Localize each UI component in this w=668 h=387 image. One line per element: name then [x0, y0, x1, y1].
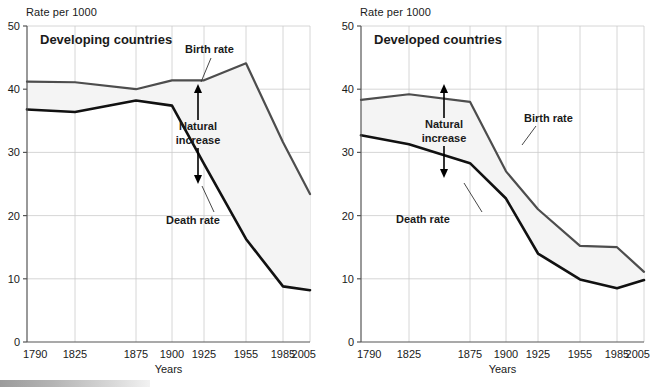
- natural-increase-band: [27, 63, 310, 290]
- y-axis-tick-label: 40: [342, 83, 354, 95]
- figure-root: Rate per 1000 01020304050179018251875190…: [0, 0, 668, 387]
- y-axis-tick-label: 50: [8, 20, 20, 32]
- y-axis-tick-label: 40: [8, 83, 20, 95]
- natural-increase-label-line2: increase: [176, 134, 221, 146]
- panel-developing: Rate per 1000 01020304050179018251875190…: [0, 0, 334, 387]
- natural-increase-label-line2: increase: [422, 132, 467, 144]
- y-axis-caption-right: Rate per 1000: [360, 6, 431, 18]
- birth-rate-label: Birth rate: [524, 112, 573, 124]
- x-axis-tick-label: 1875: [458, 348, 482, 360]
- birth-rate-leader-line: [522, 126, 536, 145]
- panel-title: Developed countries: [374, 32, 502, 47]
- x-axis-tick-label: 1955: [568, 348, 592, 360]
- death-rate-leader-line: [464, 183, 482, 212]
- x-axis-tick-label: 1790: [357, 348, 381, 360]
- arrow-head-down: [194, 175, 202, 184]
- y-axis-tick-label: 0: [14, 336, 20, 348]
- natural-increase-label-line1: Natural: [179, 120, 217, 132]
- death-rate-label: Death rate: [396, 213, 450, 225]
- chart-developing: 0102030405017901825187519001925195519852…: [0, 0, 334, 375]
- natural-increase-label-line1: Natural: [425, 118, 463, 130]
- y-axis-tick-label: 10: [8, 273, 20, 285]
- y-axis-tick-label: 0: [348, 336, 354, 348]
- x-axis-tick-label: 1825: [397, 348, 421, 360]
- y-axis-tick-label: 20: [342, 210, 354, 222]
- x-axis-tick-label: 1900: [494, 348, 518, 360]
- x-axis-tick-label: 1790: [23, 348, 47, 360]
- x-axis-tick-label: 1875: [124, 348, 148, 360]
- x-axis-tick-label: 2005: [292, 348, 316, 360]
- y-axis-tick-label: 30: [342, 146, 354, 158]
- panel-developed: Rate per 1000 01020304050179018251875190…: [334, 0, 668, 387]
- natural-increase-band: [361, 94, 644, 288]
- y-axis-tick-label: 10: [342, 273, 354, 285]
- x-axis-tick-label: 2005: [626, 348, 650, 360]
- y-axis-caption-left: Rate per 1000: [26, 6, 97, 18]
- x-axis-title: Years: [155, 363, 183, 375]
- x-axis-tick-label: 1900: [160, 348, 184, 360]
- chart-developed: 0102030405017901825187519001925195519852…: [334, 0, 668, 375]
- arrow-head-up: [440, 84, 448, 93]
- x-axis-tick-label: 1955: [234, 348, 258, 360]
- birth-rate-label: Birth rate: [185, 43, 234, 55]
- x-axis-tick-label: 1925: [192, 348, 216, 360]
- arrow-head-down: [440, 169, 448, 178]
- death-rate-label: Death rate: [166, 214, 220, 226]
- panel-title: Developing countries: [40, 32, 172, 47]
- y-axis-tick-label: 20: [8, 210, 20, 222]
- x-axis-title: Years: [489, 363, 517, 375]
- x-axis-tick-label: 1825: [63, 348, 87, 360]
- horizontal-scrollbar[interactable]: [0, 380, 150, 387]
- y-axis-tick-label: 50: [342, 20, 354, 32]
- y-axis-tick-label: 30: [8, 146, 20, 158]
- x-axis-tick-label: 1925: [526, 348, 550, 360]
